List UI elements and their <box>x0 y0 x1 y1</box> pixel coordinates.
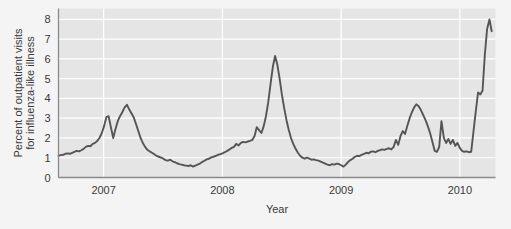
y-tick-label-3: 3 <box>44 112 50 124</box>
y-tick-label-4: 4 <box>44 92 50 104</box>
y-tick-label-0: 0 <box>44 172 50 184</box>
chart-svg: 012345678 2007200820092010 Percent of ou… <box>0 0 511 229</box>
y-axis-title-line-2: for influenza-like illness <box>24 36 36 150</box>
x-tick-label-2010: 2010 <box>448 184 472 196</box>
y-tick-label-5: 5 <box>44 73 50 85</box>
x-axis-title: Year <box>266 203 289 215</box>
y-tick-label-8: 8 <box>44 13 50 25</box>
plot-area-background <box>59 9 496 178</box>
y-tick-label-1: 1 <box>44 152 50 164</box>
y-axis-title-line-1: Percent of outpatient visits <box>12 28 24 158</box>
x-tick-label-2007: 2007 <box>91 184 115 196</box>
y-tick-label-7: 7 <box>44 33 50 45</box>
y-tick-label-6: 6 <box>44 53 50 65</box>
influenza-like-illness-line-chart: 012345678 2007200820092010 Percent of ou… <box>0 0 511 229</box>
x-tick-label-2008: 2008 <box>210 184 234 196</box>
y-axis-tick-labels: 012345678 <box>44 13 50 183</box>
y-tick-label-2: 2 <box>44 132 50 144</box>
x-tick-label-2009: 2009 <box>329 184 353 196</box>
